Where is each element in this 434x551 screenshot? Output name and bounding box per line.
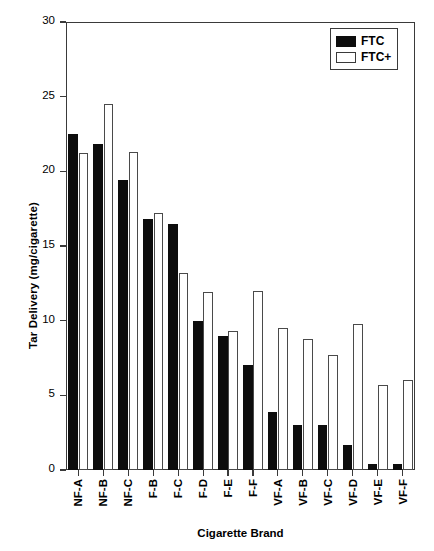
x-tick-mark (402, 470, 403, 476)
bar-f-d-ftc (193, 321, 203, 470)
bar-group (393, 22, 413, 470)
bar-vf-a-ftc (268, 412, 278, 470)
legend-label-ftcplus: FTC+ (361, 51, 391, 63)
legend-item-ftcplus: FTC+ (336, 49, 391, 65)
bar-group (293, 22, 313, 470)
bar-group (193, 22, 213, 470)
chart-figure: Tar Delivery (mg/cigarette) 051015202530… (0, 0, 434, 551)
bar-f-f-ftcplus (253, 291, 263, 470)
x-tick-mark (78, 470, 79, 476)
bar-f-e-ftcplus (228, 331, 238, 470)
bar-nf-c-ftcplus (129, 152, 139, 470)
bar-f-c-ftc (168, 224, 178, 470)
x-tick-mark (178, 470, 179, 476)
bars-layer (66, 22, 415, 470)
bar-vf-d-ftc (343, 445, 353, 470)
x-tick-mark (327, 470, 328, 476)
bar-vf-b-ftcplus (303, 339, 313, 470)
bar-vf-e-ftc (368, 464, 378, 470)
bar-group (368, 22, 388, 470)
bar-vf-a-ftcplus (278, 328, 288, 470)
x-tick-mark (203, 470, 204, 476)
bar-vf-d-ftcplus (353, 324, 363, 470)
y-tick-label: 25 (42, 89, 55, 101)
x-tick-mark (103, 470, 104, 476)
bar-f-c-ftcplus (179, 273, 189, 470)
bar-nf-b-ftc (93, 144, 103, 470)
legend: FTC FTC+ (330, 28, 398, 70)
bar-vf-f-ftcplus (403, 380, 413, 470)
y-axis-title: Tar Delivery (mg/cigarette) (22, 0, 44, 551)
x-axis-title: Cigarette Brand (66, 527, 415, 539)
legend-swatch-ftcplus (336, 52, 356, 63)
x-tick-mark (377, 470, 378, 476)
y-tick-label: 0 (49, 462, 55, 474)
bar-group (268, 22, 288, 470)
bar-group (218, 22, 238, 470)
x-tick-mark (153, 470, 154, 476)
bar-vf-c-ftcplus (328, 355, 338, 470)
bar-group (118, 22, 138, 470)
x-tick-mark (302, 470, 303, 476)
x-tick-mark (227, 470, 228, 476)
bar-f-b-ftcplus (154, 213, 164, 470)
legend-item-ftc: FTC (336, 33, 391, 49)
bar-vf-e-ftcplus (378, 385, 388, 470)
y-tick-label: 20 (42, 163, 55, 175)
bar-group (243, 22, 263, 470)
bar-group (343, 22, 363, 470)
bar-vf-b-ftc (293, 425, 303, 470)
bar-vf-f-ftc (393, 464, 403, 470)
x-tick-mark (352, 470, 353, 476)
x-tick-mark (128, 470, 129, 476)
bar-f-b-ftc (143, 219, 153, 470)
bar-f-e-ftc (218, 336, 228, 470)
bar-group (68, 22, 88, 470)
bar-nf-a-ftc (68, 134, 78, 470)
bar-f-f-ftc (243, 365, 253, 470)
bar-group (93, 22, 113, 470)
x-tick-mark (277, 470, 278, 476)
bar-vf-c-ftc (318, 425, 328, 470)
bar-group (318, 22, 338, 470)
y-tick-label: 30 (42, 14, 55, 26)
bar-nf-c-ftc (118, 180, 128, 470)
y-tick-label: 5 (49, 387, 55, 399)
bar-nf-a-ftcplus (79, 153, 89, 470)
bar-group (143, 22, 163, 470)
bar-group (168, 22, 188, 470)
y-tick-label: 10 (42, 313, 55, 325)
x-tick-mark (252, 470, 253, 476)
legend-label-ftc: FTC (361, 35, 384, 47)
bar-nf-b-ftcplus (104, 104, 114, 470)
y-tick-label: 15 (42, 238, 55, 250)
bar-f-d-ftcplus (203, 292, 213, 470)
legend-swatch-ftc (336, 36, 356, 47)
